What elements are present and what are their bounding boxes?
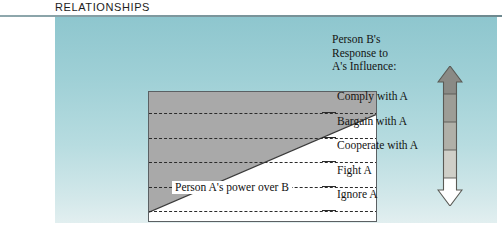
arrow-segment-comply bbox=[437, 66, 463, 94]
tick-stub-bargain bbox=[322, 137, 336, 138]
arrow-segment-bargain bbox=[437, 94, 463, 122]
gridline-cooperate bbox=[149, 162, 377, 163]
response-label-bargain: Bargain with A bbox=[337, 115, 407, 127]
running-head: RELATIONSHIPS bbox=[55, 1, 150, 13]
response-axis-heading: Person B's Response to A's Influence: bbox=[332, 33, 396, 74]
response-heading-line-3: A's Influence: bbox=[332, 60, 396, 74]
power-balance-diagonal bbox=[149, 92, 376, 221]
response-heading-line-1: Person B's bbox=[332, 33, 396, 47]
response-label-cooperate: Cooperate with A bbox=[337, 139, 418, 151]
response-label-fight: Fight A bbox=[337, 164, 372, 176]
figure-page: RELATIONSHIPS Person A's power over B Pe… bbox=[0, 0, 502, 231]
tick-stub-ignore bbox=[322, 210, 336, 211]
tick-stub-cooperate bbox=[322, 161, 336, 162]
person-a-power-label: Person A's power over B bbox=[172, 181, 292, 194]
arrow-segment-cooperate bbox=[437, 122, 463, 150]
gridline-ignore bbox=[149, 211, 377, 212]
arrow-segment-fight bbox=[437, 150, 463, 178]
tick-stub-comply bbox=[322, 112, 336, 113]
power-balance-chart: Person A's power over B Person B's count… bbox=[148, 91, 377, 222]
tick-stub-fight bbox=[322, 186, 336, 187]
response-label-comply: Comply with A bbox=[337, 90, 408, 102]
arrow-segment-ignore bbox=[437, 178, 463, 206]
gridline-comply bbox=[149, 113, 377, 114]
response-heading-line-2: Response to bbox=[332, 47, 396, 61]
response-label-ignore: Ignore A bbox=[337, 188, 378, 200]
double-headed-gradient-arrow-icon bbox=[437, 66, 463, 206]
figure-panel: Person A's power over B Person B's count… bbox=[55, 17, 497, 223]
